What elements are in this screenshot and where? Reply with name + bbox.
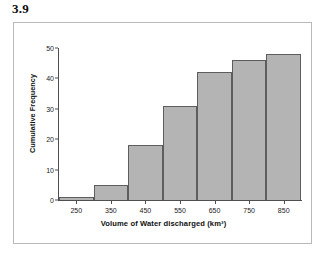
chart-plot-wrapper: Cumulative Frequency 0102030405025035045… — [14, 23, 313, 245]
chart-bar — [197, 72, 232, 200]
plot-area: 01020304050250350450550650750850 — [59, 48, 301, 200]
x-axis-tick-label: 550 — [162, 207, 198, 214]
y-axis-tick-mark — [55, 48, 58, 49]
y-axis-tick-mark — [55, 108, 58, 109]
x-axis-tick-mark — [76, 201, 77, 204]
y-axis-tick-mark — [55, 200, 58, 201]
chart-bar — [266, 54, 301, 200]
chart-frame: Cumulative Frequency 0102030405025035045… — [13, 22, 312, 244]
chart-bar — [232, 60, 267, 200]
chart-bar — [94, 185, 129, 200]
x-axis-tick-mark — [111, 201, 112, 204]
x-axis-tick-label: 750 — [231, 207, 267, 214]
x-axis-tick-mark — [215, 201, 216, 204]
x-axis-tick-label: 850 — [266, 207, 302, 214]
x-axis-tick-mark — [145, 201, 146, 204]
y-axis-tick-mark — [55, 139, 58, 140]
x-axis-tick-label: 450 — [127, 207, 163, 214]
chart-bar — [128, 145, 163, 200]
chart-bar — [59, 197, 94, 200]
x-axis-tick-label: 250 — [58, 207, 94, 214]
x-axis-tick-mark — [249, 201, 250, 204]
x-axis-tick-label: 350 — [93, 207, 129, 214]
figure-number-label: 3.9 — [12, 1, 29, 17]
x-axis-title: Volume of Water discharged (km³) — [14, 219, 313, 228]
x-axis-tick-label: 650 — [197, 207, 233, 214]
x-axis-tick-mark — [180, 201, 181, 204]
x-axis-tick-mark — [284, 201, 285, 204]
chart-bar — [163, 106, 198, 200]
y-axis-tick-mark — [55, 78, 58, 79]
y-axis-tick-mark — [55, 169, 58, 170]
